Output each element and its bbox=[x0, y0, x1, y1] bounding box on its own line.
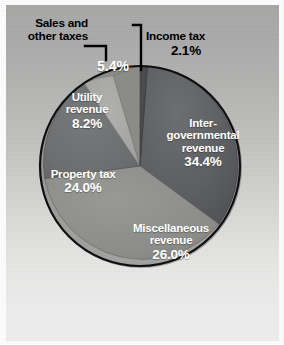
callout-label-income-tax-text: Income tax bbox=[146, 29, 205, 43]
slice-percent-income-tax: 2.1% bbox=[146, 43, 226, 59]
slice-label-property-tax: Property tax 24.0% bbox=[34, 155, 132, 208]
slice-label-intergovernmental-revenue-text: Inter- governmental revenue bbox=[166, 117, 239, 154]
callout-label-sales-and-other-taxes: Sales and other taxes bbox=[24, 17, 88, 43]
slice-label-miscellaneous-revenue: Miscellaneous revenue 26.0% bbox=[119, 209, 223, 274]
leader-line-income-tax bbox=[133, 25, 141, 70]
slice-label-miscellaneous-revenue-text: Miscellaneous revenue bbox=[133, 222, 209, 247]
callout-label-income-tax: Income tax 2.1% bbox=[146, 17, 238, 72]
slice-label-intergovernmental-revenue: Inter- governmental revenue 34.4% bbox=[152, 104, 254, 182]
slice-percent-utility-revenue: 8.2% bbox=[56, 116, 118, 131]
pie-chart-figure: Sales and other taxes 5.4% Income tax 2.… bbox=[0, 0, 284, 345]
slice-label-utility-revenue-text: Utility revenue bbox=[66, 91, 109, 116]
slice-percent-sales-and-other-taxes: 5.4% bbox=[97, 59, 129, 74]
slice-label-property-tax-text: Property tax bbox=[51, 168, 116, 180]
slice-percent-property-tax: 24.0% bbox=[34, 180, 132, 195]
slice-percent-intergovernmental-revenue: 34.4% bbox=[152, 154, 254, 169]
slice-label-utility-revenue: Utility revenue 8.2% bbox=[56, 78, 118, 143]
slice-percent-miscellaneous-revenue: 26.0% bbox=[119, 247, 223, 262]
